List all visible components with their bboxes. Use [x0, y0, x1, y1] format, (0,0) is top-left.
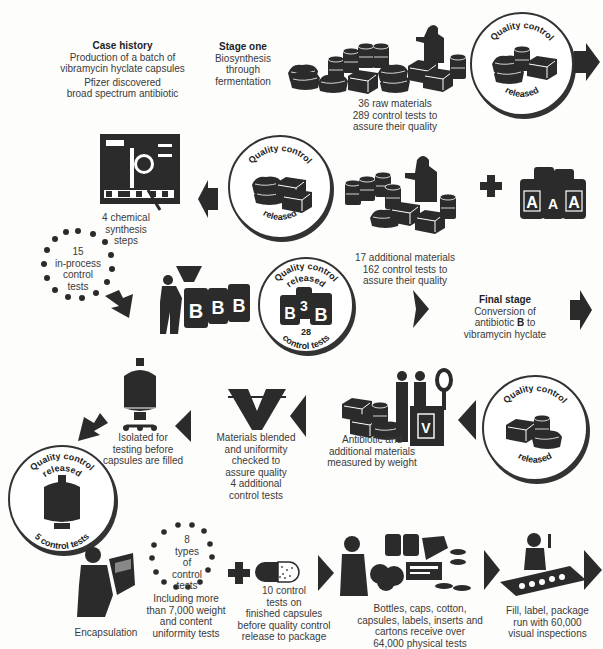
caption-line: tests: [46, 281, 110, 293]
quality-control-badge-3: Quality control released B 3 B 28 contro…: [258, 257, 354, 353]
caption-line: finished capsules: [234, 608, 334, 620]
stage-one-line: fermentation: [208, 76, 278, 88]
final-stage-line: antibiotic B to: [450, 317, 560, 329]
qc-count: 28: [301, 327, 311, 337]
raw-materials-illustration: [288, 18, 468, 98]
qc-bottom-label: released: [504, 85, 541, 99]
intro-line: vibramycin hyclate capsules: [60, 63, 185, 75]
capsule-tests-caption: 10 control tests on finished capsules be…: [234, 585, 334, 643]
caption-line: before quality control: [234, 620, 334, 632]
packaging-materials-caption: Bottles, caps, cotton, capsules, labels,…: [355, 603, 485, 649]
caption-line: release to package: [234, 631, 334, 643]
text-span: to: [524, 317, 535, 328]
caption-line: control: [46, 269, 110, 281]
svg-text:Quality control: Quality control: [488, 20, 556, 43]
caption-line: testing before: [102, 444, 184, 456]
drum-letter: B: [284, 305, 296, 322]
arrow-right-icon: [484, 550, 500, 590]
qc-top-label: Quality control: [488, 20, 556, 43]
capsule-icon: [254, 561, 300, 583]
svg-text:Quality control: Quality control: [246, 143, 314, 166]
packaging-materials-illustration: [340, 530, 485, 602]
antibiotic-a-drums: A A A: [518, 163, 588, 223]
intro-line: broad spectrum antibiotic: [60, 88, 185, 100]
caption-line: additional materials: [322, 446, 422, 458]
arrow-right-icon: [318, 555, 334, 591]
caption-line: tests: [162, 580, 212, 592]
caption-line: types: [162, 546, 212, 558]
blender-v-icon: [228, 385, 286, 430]
caption-line: 4 chemical: [96, 212, 156, 224]
arrow-left-icon: [290, 395, 306, 437]
arrow-right-icon: [574, 43, 600, 81]
caption-line: 17 additional materials: [345, 252, 465, 264]
raw-materials-caption: 36 raw materials 289 control tests to as…: [340, 98, 450, 133]
drum-letter: A: [526, 194, 538, 211]
caption-line: and uniformity: [200, 444, 312, 456]
caption-line: 162 control tests to: [345, 264, 465, 276]
caption-line: 64,000 physical tests: [355, 638, 485, 649]
quality-control-badge-5: Quality control released 5 control tests: [8, 445, 116, 553]
stage-one-line: through: [208, 64, 278, 76]
drum-letter: B: [189, 300, 203, 322]
fill-line-illustration: [500, 530, 588, 600]
caption-line: 4 additional: [200, 478, 312, 490]
drum-letter: A: [548, 196, 558, 212]
caption-line: and content: [142, 616, 230, 628]
stage-one-block: Stage one Biosynthesis through fermentat…: [208, 41, 278, 87]
antibiotic-b-drums-worker: B B B: [158, 262, 254, 342]
additional-materials-illustration: [345, 150, 460, 250]
drum-letter: B: [212, 298, 225, 318]
plus-icon: [480, 175, 502, 197]
arrow-right-icon: [570, 290, 592, 330]
quality-control-badge-1: Quality control released: [470, 12, 574, 116]
caption-line: visual inspections: [500, 628, 595, 640]
caption-line: capsules, labels, inserts and: [355, 615, 485, 627]
caption-line: Bottles, caps, cotton,: [355, 603, 485, 615]
plus-icon: [228, 562, 250, 584]
types-tests-description: Including more than 7,000 weight and con…: [142, 593, 230, 639]
arrow-down-left-icon: [78, 413, 108, 441]
caption-line: 289 control tests to: [340, 110, 450, 122]
additional-materials-caption: 17 additional materials 162 control test…: [345, 252, 465, 287]
caption-line: tests on: [234, 597, 334, 609]
final-stage-line: Conversion of: [450, 306, 560, 318]
caption-line: in-process: [46, 258, 110, 270]
drum-letter: B: [315, 305, 328, 325]
final-stage-block: Final stage Conversion of antibiotic B t…: [450, 294, 560, 340]
svg-text:released: released: [504, 85, 541, 99]
caption-line: assure quality: [200, 467, 312, 479]
caption-line: 15: [46, 246, 110, 258]
caption-line: of: [162, 557, 212, 569]
encapsulation-worker-illustration: [75, 545, 137, 620]
caption-line: Including more: [142, 593, 230, 605]
final-stage-line: vibramycin hyclate: [450, 329, 560, 341]
drum-letter: 3: [300, 298, 308, 314]
qc-middle-label: released: [284, 273, 327, 289]
caption-line: control: [162, 569, 212, 581]
arrow-left-icon: [198, 180, 218, 218]
intro-line: Pfizer discovered: [60, 77, 185, 89]
arrow-down-right-icon: [105, 290, 137, 320]
caption-line: 8: [162, 534, 212, 546]
stage-one-title: Stage one: [208, 41, 278, 53]
drum-letter: A: [568, 194, 580, 211]
caption-line: checked to: [200, 455, 312, 467]
caption-line: capsules are filled: [102, 455, 184, 467]
case-history-block: Case history Production of a batch of vi…: [60, 40, 185, 100]
weighing-caption: Antibiotic and additional materials meas…: [322, 434, 422, 469]
caption-line: Isolated for: [102, 432, 184, 444]
quality-control-badge-4: Quality control released: [482, 375, 588, 481]
caption-line: assure their quality: [340, 121, 450, 133]
caption-line: assure their quality: [345, 275, 465, 287]
in-process-caption: 15 in-process control tests: [46, 246, 110, 292]
arrow-right-icon: [413, 290, 429, 328]
caption-line: run with 60,000: [500, 617, 595, 629]
caption-line: 36 raw materials: [340, 98, 450, 110]
fill-caption: Fill, label, package run with 60,000 vis…: [500, 605, 595, 640]
qc-bottom-label: released: [517, 451, 554, 465]
types-tests-ring-caption: 8 types of control tests: [162, 534, 212, 592]
isolation-container-illustration: [120, 358, 160, 433]
chemical-plant-illustration: [98, 130, 184, 212]
caption-line: uniformity tests: [142, 628, 230, 640]
